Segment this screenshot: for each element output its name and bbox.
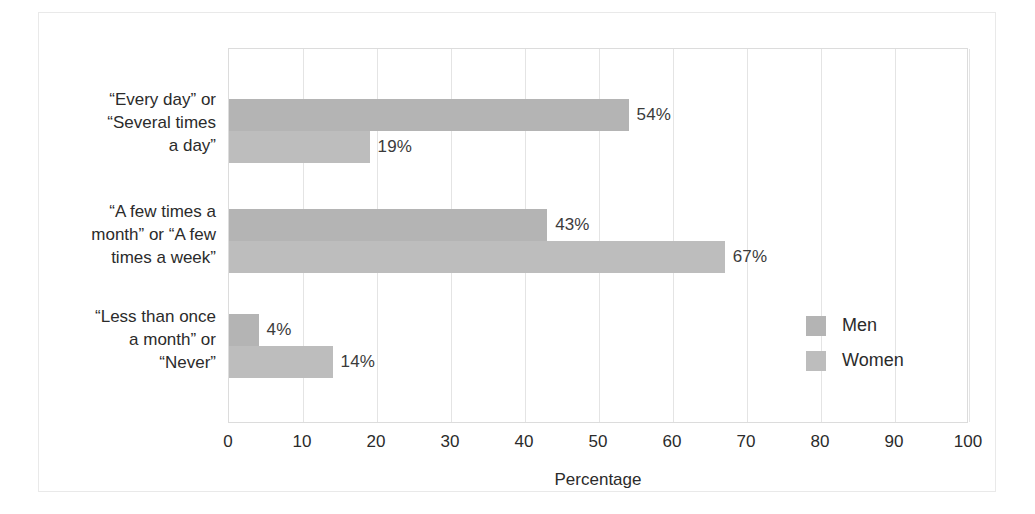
- x-tick-label: 30: [430, 432, 470, 452]
- category-label-line: a month” or: [46, 328, 216, 351]
- chart-legend: Men Women: [806, 308, 904, 378]
- legend-swatch-women: [806, 351, 826, 371]
- category-label-line: “Never”: [46, 351, 216, 374]
- bar-row: 67%: [229, 241, 967, 273]
- legend-swatch-men: [806, 316, 826, 336]
- x-axis-title: Percentage: [228, 470, 968, 490]
- x-tick-label: 60: [652, 432, 692, 452]
- bar-women[interactable]: [229, 346, 333, 378]
- bar-value-label: 14%: [341, 352, 375, 372]
- x-tick-label: 20: [356, 432, 396, 452]
- gridline: [969, 49, 970, 422]
- bar-value-label: 19%: [378, 137, 412, 157]
- category-label-line: month” or “A few: [46, 223, 216, 246]
- bar-women[interactable]: [229, 241, 725, 273]
- category-label-line: “A few times a: [46, 200, 216, 223]
- category-label-line: “Less than once: [46, 305, 216, 328]
- category-label-line: times a week”: [46, 246, 216, 269]
- bar-men[interactable]: [229, 209, 547, 241]
- category-label-every-day: “Every day” or “Several times a day”: [46, 88, 216, 157]
- x-tick-label: 100: [948, 432, 988, 452]
- x-tick-label: 80: [800, 432, 840, 452]
- x-tick-label: 40: [504, 432, 544, 452]
- bar-men[interactable]: [229, 99, 629, 131]
- category-label-less-than-once: “Less than once a month” or “Never”: [46, 305, 216, 374]
- bar-value-label: 4%: [267, 320, 292, 340]
- x-tick-label: 10: [282, 432, 322, 452]
- bar-women[interactable]: [229, 131, 370, 163]
- x-tick-label: 50: [578, 432, 618, 452]
- bar-row: 54%: [229, 99, 967, 131]
- grouped-bar-chart: “Every day” or “Several times a day” “A …: [0, 0, 1035, 514]
- bar-row: 43%: [229, 209, 967, 241]
- category-label-a-few-times: “A few times a month” or “A few times a …: [46, 200, 216, 269]
- x-tick-label: 90: [874, 432, 914, 452]
- bar-value-label: 54%: [637, 105, 671, 125]
- bar-men[interactable]: [229, 314, 259, 346]
- bar-group: 43%67%: [229, 209, 967, 273]
- category-label-line: “Several times: [46, 111, 216, 134]
- category-label-line: a day”: [46, 134, 216, 157]
- bar-value-label: 67%: [733, 247, 767, 267]
- bar-row: 19%: [229, 131, 967, 163]
- legend-label-men: Men: [842, 315, 877, 336]
- bar-value-label: 43%: [555, 215, 589, 235]
- category-label-line: “Every day” or: [46, 88, 216, 111]
- bar-group: 54%19%: [229, 99, 967, 163]
- x-tick-label: 70: [726, 432, 766, 452]
- legend-item-women: Women: [806, 343, 904, 378]
- x-tick-label: 0: [208, 432, 248, 452]
- legend-item-men: Men: [806, 308, 904, 343]
- legend-label-women: Women: [842, 350, 904, 371]
